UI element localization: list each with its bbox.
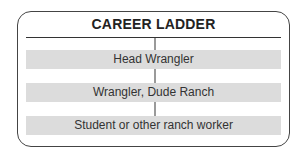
ladder-level-entry: Student or other ranch worker xyxy=(26,116,281,135)
career-ladder-card: CAREER LADDER Head Wrangler Wrangler, Du… xyxy=(17,11,290,147)
ladder-level-top: Head Wrangler xyxy=(26,50,281,69)
card-title: CAREER LADDER xyxy=(18,16,289,32)
ladder-level-middle: Wrangler, Dude Ranch xyxy=(26,83,281,102)
